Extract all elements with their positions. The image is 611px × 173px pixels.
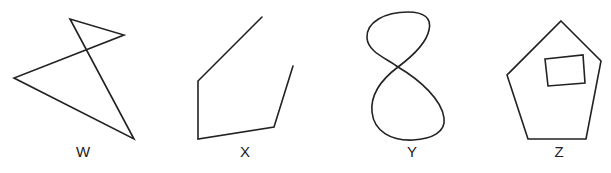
figure-w: W xyxy=(14,19,134,160)
figure-z: Z xyxy=(507,21,601,160)
figure-y: Y xyxy=(367,12,444,160)
label-z: Z xyxy=(554,143,563,160)
label-y: Y xyxy=(407,143,417,160)
shape-z-inner-quadrilateral-hole xyxy=(545,55,585,86)
shape-y-figure-eight-curve xyxy=(367,12,444,140)
shape-w-self-intersecting-polygon xyxy=(14,19,134,139)
shape-x-open-polyline xyxy=(198,17,293,139)
figure-canvas: W X Y Z xyxy=(0,0,611,173)
shape-z-pentagon xyxy=(507,21,601,139)
label-x: X xyxy=(240,143,250,160)
figure-x: X xyxy=(198,17,293,160)
label-w: W xyxy=(76,143,91,160)
